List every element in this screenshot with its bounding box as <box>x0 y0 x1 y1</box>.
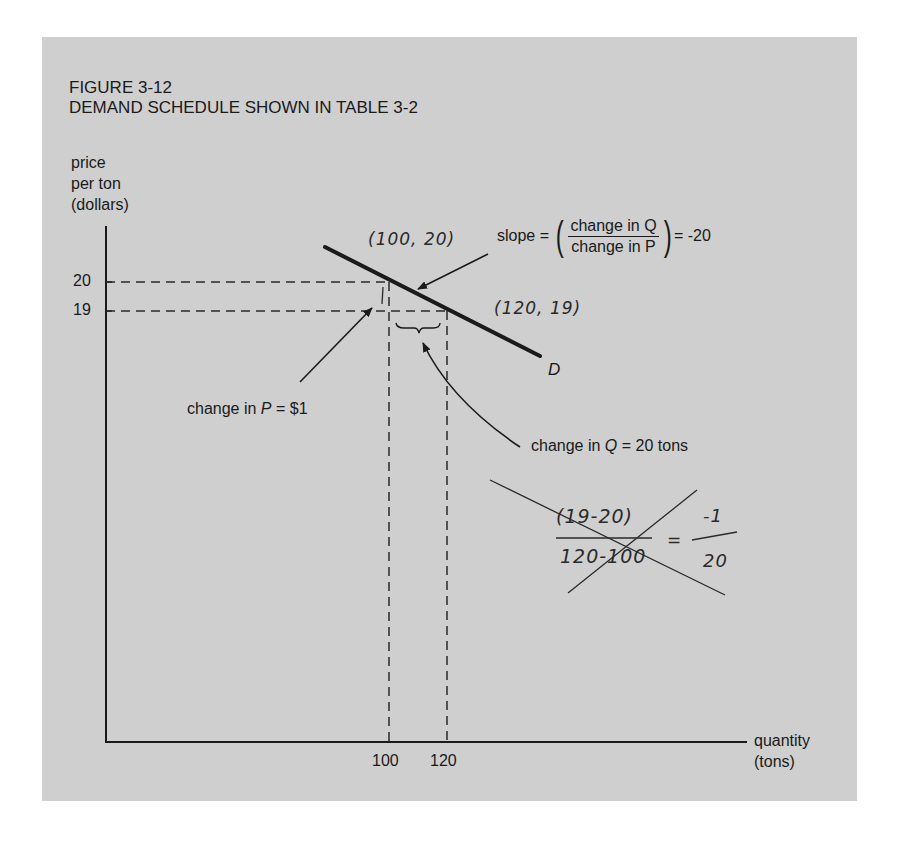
slope-numerator: change in Q <box>570 217 656 234</box>
change-q-arrow <box>423 343 520 447</box>
handwritten-calc-result-den: 20 <box>703 550 728 571</box>
slope-prefix: slope = <box>497 227 549 245</box>
strike-line-1 <box>490 480 725 595</box>
change-q-text: change in <box>531 437 600 454</box>
handwritten-point-a: (100, 20) <box>368 229 455 249</box>
y-tick-20: 20 <box>73 272 91 290</box>
slope-fraction: change in Q change in P <box>568 217 658 256</box>
x-axis-label-line-2: (tons) <box>754 751 810 772</box>
slope-arrow <box>418 254 488 289</box>
quantity-brace <box>396 323 440 333</box>
handwritten-calc-denominator: 120-100 <box>560 545 646 567</box>
x-tick-120: 120 <box>430 752 457 770</box>
x-axis-label-line-1: quantity <box>754 730 810 751</box>
dashed-guides <box>106 282 447 742</box>
change-q-value: = 20 tons <box>622 437 688 454</box>
change-p-var: P <box>261 400 272 417</box>
handwritten-calc-numerator: (19-20) <box>556 505 633 527</box>
change-p-label: change in P = $1 <box>187 400 308 418</box>
change-q-label: change in Q = 20 tons <box>531 437 688 455</box>
x-axis-label: quantity (tons) <box>754 730 810 772</box>
slope-result: = -20 <box>674 227 711 245</box>
y-tick-19: 19 <box>73 301 91 319</box>
x-tick-100: 100 <box>372 752 399 770</box>
handwritten-calc-equals: = <box>667 530 682 550</box>
handwritten-point-b: (120, 19) <box>494 298 581 318</box>
change-p-value: = $1 <box>276 400 308 417</box>
slope-formula: slope = ( change in Q change in P ) = -2… <box>497 216 711 256</box>
handwritten-tick <box>382 287 383 304</box>
demand-chart <box>0 0 898 847</box>
slope-denominator: change in P <box>571 238 656 255</box>
change-p-text: change in <box>187 400 256 417</box>
handwritten-calc-result-num: -1 <box>703 505 723 526</box>
change-q-var: Q <box>605 437 617 454</box>
change-p-arrow <box>300 308 372 382</box>
demand-curve-label: D <box>548 360 560 380</box>
